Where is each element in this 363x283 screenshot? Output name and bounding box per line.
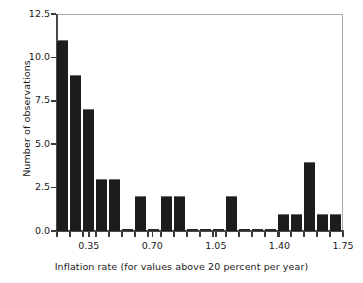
histogram-chart: Number of observations 0.02.55.07.510.01… — [0, 0, 363, 283]
x-axis-title: Inflation rate (for values above 20 perc… — [0, 261, 363, 272]
histogram-bar — [83, 109, 94, 231]
histogram-bar — [239, 229, 250, 231]
x-tick-mark — [160, 232, 162, 237]
x-tick-mark — [316, 232, 318, 237]
histogram-bar — [213, 229, 224, 231]
histogram-bar — [200, 229, 211, 231]
y-tick-mark — [51, 143, 56, 145]
y-tick-label: 7.5 — [0, 94, 50, 105]
y-tick-mark — [51, 100, 56, 102]
histogram-bar — [304, 162, 315, 231]
x-tick-label: 1.75 — [313, 240, 363, 251]
histogram-bar — [70, 75, 81, 231]
x-tick-mark-major — [215, 232, 217, 237]
histogram-bar — [291, 214, 302, 231]
y-tick-label: 10.0 — [0, 51, 50, 62]
histogram-bar — [109, 179, 120, 231]
histogram-bar — [161, 196, 172, 231]
x-tick-mark — [212, 232, 214, 237]
x-tick-mark — [290, 232, 292, 237]
histogram-bar — [252, 229, 263, 231]
x-tick-label: 0.70 — [122, 240, 182, 251]
x-tick-mark — [225, 232, 227, 237]
x-tick-mark-major — [279, 232, 281, 237]
histogram-bar — [317, 214, 328, 231]
histogram-bar — [278, 214, 289, 231]
x-tick-label: 1.05 — [186, 240, 246, 251]
histogram-bar — [148, 229, 159, 231]
y-tick-label: 12.5 — [0, 8, 50, 19]
x-tick-mark-major — [88, 232, 90, 237]
x-tick-mark — [134, 232, 136, 237]
x-tick-mark — [108, 232, 110, 237]
y-tick-label: 5.0 — [0, 138, 50, 149]
histogram-bar — [174, 196, 185, 231]
histogram-bar — [187, 229, 198, 231]
x-tick-mark — [121, 232, 123, 237]
y-tick-mark — [51, 187, 56, 189]
y-tick-mark — [51, 230, 56, 232]
x-tick-mark — [56, 232, 58, 237]
x-tick-mark — [329, 232, 331, 237]
histogram-bar — [135, 196, 146, 231]
x-tick-mark — [251, 232, 253, 237]
y-tick-mark — [51, 57, 56, 59]
x-tick-mark — [82, 232, 84, 237]
x-tick-mark — [186, 232, 188, 237]
x-tick-mark — [238, 232, 240, 237]
y-tick-label: 0.0 — [0, 225, 50, 236]
histogram-bar — [265, 229, 276, 231]
x-tick-mark-major — [152, 232, 154, 237]
histogram-bar — [122, 229, 133, 231]
y-tick-mark — [51, 13, 56, 15]
x-tick-mark-major — [342, 232, 344, 237]
x-tick-mark — [264, 232, 266, 237]
histogram-bar — [96, 179, 107, 231]
x-tick-mark — [199, 232, 201, 237]
histogram-bar — [330, 214, 341, 231]
x-tick-mark — [95, 232, 97, 237]
x-tick-mark — [69, 232, 71, 237]
histogram-bar — [226, 196, 237, 231]
histogram-bar — [57, 40, 68, 231]
y-tick-label: 2.5 — [0, 181, 50, 192]
bar-series — [57, 14, 343, 231]
x-tick-mark — [173, 232, 175, 237]
x-tick-mark — [147, 232, 149, 237]
x-tick-label: 0.35 — [59, 240, 119, 251]
x-tick-mark — [303, 232, 305, 237]
x-tick-label: 1.40 — [249, 240, 309, 251]
